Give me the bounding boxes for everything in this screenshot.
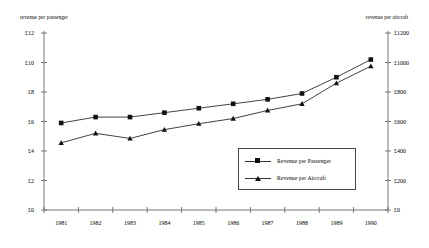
plot-area [0,0,429,248]
legend-label-passenger: Revenue per Passenger [277,158,331,164]
data-point-0-1986 [231,102,236,107]
data-point-0-1989 [334,75,339,80]
data-point-1-1989 [334,80,339,85]
chart-container: revenue per passenger revenue per aircra… [0,0,429,248]
chart-legend: Revenue per Passenger Revenue per Aircra… [238,148,356,190]
triangle-marker-icon [255,176,261,181]
legend-item-revenue-per-passenger: Revenue per Passenger [245,154,331,168]
legend-line-passenger [245,161,271,162]
data-point-1-1990 [368,63,373,68]
data-point-0-1990 [369,57,374,62]
data-point-0-1988 [300,91,305,96]
square-marker-icon [255,158,260,163]
data-point-0-1985 [197,106,202,111]
data-point-0-1987 [265,97,270,102]
data-point-1-1982 [93,131,98,136]
legend-item-revenue-per-aircraft: Revenue per Aircraft [245,171,326,185]
legend-label-aircraft: Revenue per Aircraft [277,175,326,181]
legend-line-aircraft [245,178,271,179]
data-point-0-1984 [162,110,167,115]
data-point-1-1988 [299,101,304,106]
data-series-layer [59,57,374,145]
data-point-0-1981 [59,121,64,126]
data-point-0-1983 [128,115,133,120]
data-point-0-1982 [93,115,98,120]
